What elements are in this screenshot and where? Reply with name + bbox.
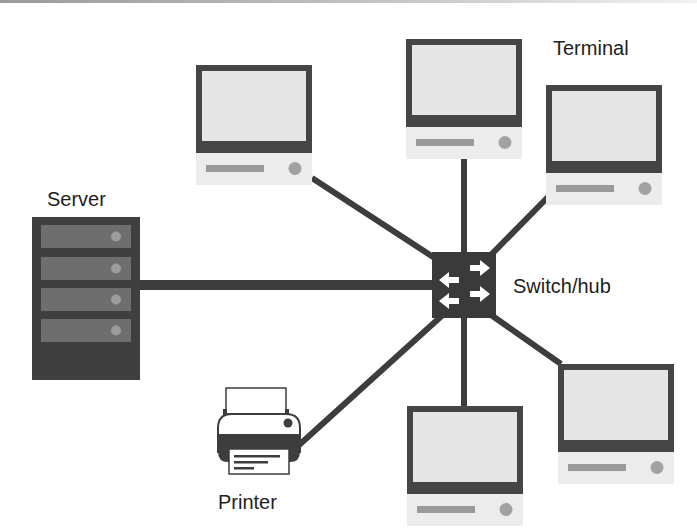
network-diagram xyxy=(0,0,697,532)
terminal-computer-icon xyxy=(546,85,662,205)
terminal-computer-icon xyxy=(558,364,674,484)
printer-icon xyxy=(218,388,300,474)
switch-hub xyxy=(432,252,496,318)
link-terminal-top-left xyxy=(312,178,450,268)
switch-hub-label: Switch/hub xyxy=(513,276,611,296)
terminal-computer-icon xyxy=(406,39,522,159)
terminal-label: Terminal xyxy=(553,38,629,58)
network-links xyxy=(140,158,561,446)
server-rack-icon xyxy=(32,217,140,380)
printer-label: Printer xyxy=(218,492,277,512)
terminal-computer-icon xyxy=(407,406,523,526)
terminal-computer-icon xyxy=(196,65,312,185)
link-terminal-bottom-right xyxy=(484,310,561,364)
server-label: Server xyxy=(47,189,106,209)
